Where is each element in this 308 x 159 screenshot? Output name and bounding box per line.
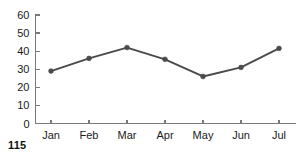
data-point-feb [87, 56, 92, 61]
data-point-may [201, 74, 206, 79]
page-number: 115 [8, 139, 26, 151]
chart-figure: 0102030405060 JanFebMarAprMayJunJul 115 [0, 0, 308, 159]
data-point-jan [49, 69, 54, 74]
y-tick-label-0: 0 [23, 118, 29, 130]
x-tick-label-mar: Mar [118, 129, 137, 141]
data-point-apr [163, 57, 168, 62]
y-tick-label-40: 40 [17, 45, 29, 57]
data-point-mar [125, 45, 130, 50]
x-axis-tick-labels: JanFebMarAprMayJunJul [42, 129, 286, 141]
y-tick-label-60: 60 [17, 9, 29, 21]
line-chart: 0102030405060 JanFebMarAprMayJunJul [0, 0, 308, 159]
y-tick-label-50: 50 [17, 27, 29, 39]
data-point-jul [277, 46, 282, 51]
y-tick-label-20: 20 [17, 81, 29, 93]
x-tick-label-jun: Jun [232, 129, 250, 141]
data-point-jun [239, 65, 244, 70]
y-tick-label-10: 10 [17, 99, 29, 111]
x-tick-label-jul: Jul [272, 129, 286, 141]
x-tick-label-jan: Jan [42, 129, 60, 141]
x-tick-label-apr: Apr [156, 129, 173, 141]
x-tick-label-feb: Feb [80, 129, 99, 141]
x-tick-label-may: May [193, 129, 214, 141]
y-tick-label-30: 30 [17, 63, 29, 75]
